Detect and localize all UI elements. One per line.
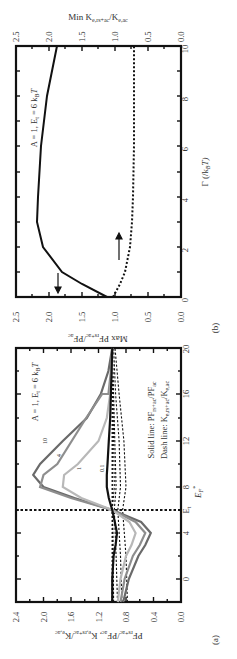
panel-b-label: (b) (210, 323, 220, 334)
b-plot-frame (16, 46, 181, 297)
b-top-axis-title: Min Ke,rs+ac/Ke,ac (68, 12, 128, 23)
b-arrow-right-axis-icon (116, 233, 122, 260)
svg-text:0.5: 0.5 (143, 312, 153, 323)
svg-text:0: 0 (180, 298, 190, 302)
a-pf-curve-gamma-1 (63, 348, 136, 602)
svg-text:0: 0 (181, 577, 191, 581)
a-params-annotation: A = 1, Et = 6 kBT (30, 361, 41, 421)
b-arrow-left-axis-icon (55, 273, 61, 293)
panel-a-label: (a) (210, 635, 220, 645)
b-min-k-curve (113, 46, 134, 297)
svg-text:2.0: 2.0 (39, 612, 49, 623)
a-dash-line-legend: Dash line: Ke,rs+ac/Ke,ac (159, 381, 170, 460)
a-pf-ratio-curves (33, 348, 151, 602)
svg-text:6: 6 (180, 147, 190, 151)
panel-a: 0.1 1 4 10 A = 1, Et = 6 kBT Solid line:… (11, 345, 220, 645)
svg-text:0.0: 0.0 (176, 312, 186, 323)
svg-text:16: 16 (181, 390, 191, 399)
svg-text:1.5: 1.5 (77, 31, 87, 42)
b-bottom-axis-title: Max PFrs+ac/PFac (68, 333, 128, 344)
svg-text:1.0: 1.0 (110, 31, 120, 42)
b-bottom-tick-labels: 2.5 2.0 1.5 1.0 0.5 0.0 (11, 312, 186, 323)
a-x-axis-title: EF* (192, 486, 204, 499)
svg-text:2.5: 2.5 (11, 31, 21, 42)
svg-text:10: 10 (42, 438, 48, 444)
svg-text:1.5: 1.5 (77, 312, 87, 323)
svg-text:1.6: 1.6 (66, 612, 76, 623)
a-y-axis-title: PFrs+ac/PFac, Ke,rs+ac/Ke,ac (55, 630, 143, 641)
svg-text:4: 4 (56, 454, 62, 457)
panel-b: Min Ke,rs+ac/Ke,ac 2.5 2.0 1.5 1.0 0.5 0… (11, 12, 220, 344)
b-top-tick-labels: 2.5 2.0 1.5 1.0 0.5 0.0 (11, 31, 186, 42)
a-pf-curve-gamma-10 (33, 348, 151, 602)
svg-text:8: 8 (180, 97, 190, 101)
svg-text:1.2: 1.2 (94, 612, 104, 623)
svg-text:0.0: 0.0 (176, 31, 186, 42)
svg-text:2.5: 2.5 (11, 312, 21, 323)
a-pf-curve-gamma-4 (40, 348, 145, 602)
figure: Min Ke,rs+ac/Ke,ac 2.5 2.0 1.5 1.0 0.5 0… (0, 0, 237, 659)
svg-text:2.0: 2.0 (44, 31, 54, 42)
svg-text:20: 20 (181, 345, 191, 354)
b-x-axis-title: Γ (/kBT) (200, 157, 211, 186)
svg-text:2.4: 2.4 (11, 611, 21, 622)
a-x-tick-labels: 0 4 8 12 16 20 (181, 345, 191, 581)
svg-text:12: 12 (181, 437, 191, 446)
a-solid-line-legend: Solid line: PFrs+ac/PFac (146, 381, 157, 458)
svg-text:2.0: 2.0 (44, 312, 54, 323)
svg-text:0.5: 0.5 (143, 31, 153, 42)
a-et-marker-label: Et (181, 506, 192, 513)
svg-text:0.8: 0.8 (121, 612, 131, 623)
svg-text:0.1: 0.1 (99, 465, 105, 473)
svg-text:1: 1 (76, 467, 82, 470)
svg-text:4: 4 (181, 530, 191, 535)
svg-text:0.4: 0.4 (149, 611, 159, 622)
a-y-tick-labels: 2.4 2.0 1.6 1.2 0.8 0.4 0.0 (11, 611, 186, 622)
svg-text:0.0: 0.0 (176, 612, 186, 623)
svg-text:1.0: 1.0 (110, 312, 120, 323)
svg-text:8: 8 (181, 485, 191, 489)
b-params-annotation: A = 1, Et = 6 kBT (29, 87, 40, 147)
a-y-ticks (30, 348, 168, 602)
b-max-pf-curve (37, 46, 107, 297)
svg-text:2: 2 (180, 248, 190, 252)
svg-text:10: 10 (180, 45, 190, 54)
